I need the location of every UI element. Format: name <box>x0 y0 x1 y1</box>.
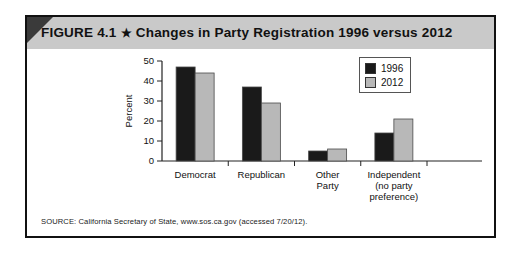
y-tick-label: 10 <box>143 135 154 146</box>
bar <box>375 133 394 161</box>
page-title: FIGURE 4.1★Changes in Party Registration… <box>41 17 453 49</box>
category-label: (no party <box>375 180 413 191</box>
legend-item: 2012 <box>365 75 403 89</box>
figure-container: FIGURE 4.1★Changes in Party Registration… <box>25 15 496 238</box>
category-label: Republican <box>238 169 286 180</box>
bar <box>309 151 328 161</box>
bar <box>328 149 347 161</box>
legend-swatch-icon <box>365 77 376 88</box>
legend-swatch-icon <box>365 63 376 74</box>
y-tick-label: 20 <box>143 115 154 126</box>
chart-plot-area: 01020304050 DemocratRepublicanOtherParty… <box>27 49 494 205</box>
bar <box>242 87 261 161</box>
y-tick-label: 40 <box>143 75 154 86</box>
bar <box>394 119 413 161</box>
bar <box>176 67 195 161</box>
y-axis-title: Percent <box>123 94 134 127</box>
source-note: SOURCE: California Secretary of State, w… <box>41 217 307 226</box>
y-tick-label: 50 <box>143 55 154 66</box>
bar-chart: 01020304050 DemocratRepublicanOtherParty… <box>27 49 494 205</box>
category-label: Party <box>317 180 339 191</box>
category-labels: DemocratRepublicanOtherPartyIndependent(… <box>175 161 427 202</box>
category-label: preference) <box>370 191 419 202</box>
y-axis-ticks: 01020304050 <box>143 55 162 166</box>
bar <box>261 103 280 161</box>
star-icon: ★ <box>117 26 136 40</box>
category-label: Democrat <box>175 169 217 180</box>
category-label: Other <box>316 169 340 180</box>
bar <box>195 73 214 161</box>
category-label: Independent <box>367 169 420 180</box>
figure-title-bar: FIGURE 4.1★Changes in Party Registration… <box>27 17 494 49</box>
legend-item: 1996 <box>365 61 403 75</box>
legend-item-label: 2012 <box>381 77 403 88</box>
legend-item-label: 1996 <box>381 63 403 74</box>
y-tick-label: 30 <box>143 95 154 106</box>
y-tick-label: 0 <box>149 155 154 166</box>
figure-title-label: Changes in Party Registration 1996 versu… <box>136 25 453 40</box>
chart-legend: 19962012 <box>359 57 411 93</box>
figure-number-label: FIGURE 4.1 <box>41 25 117 40</box>
